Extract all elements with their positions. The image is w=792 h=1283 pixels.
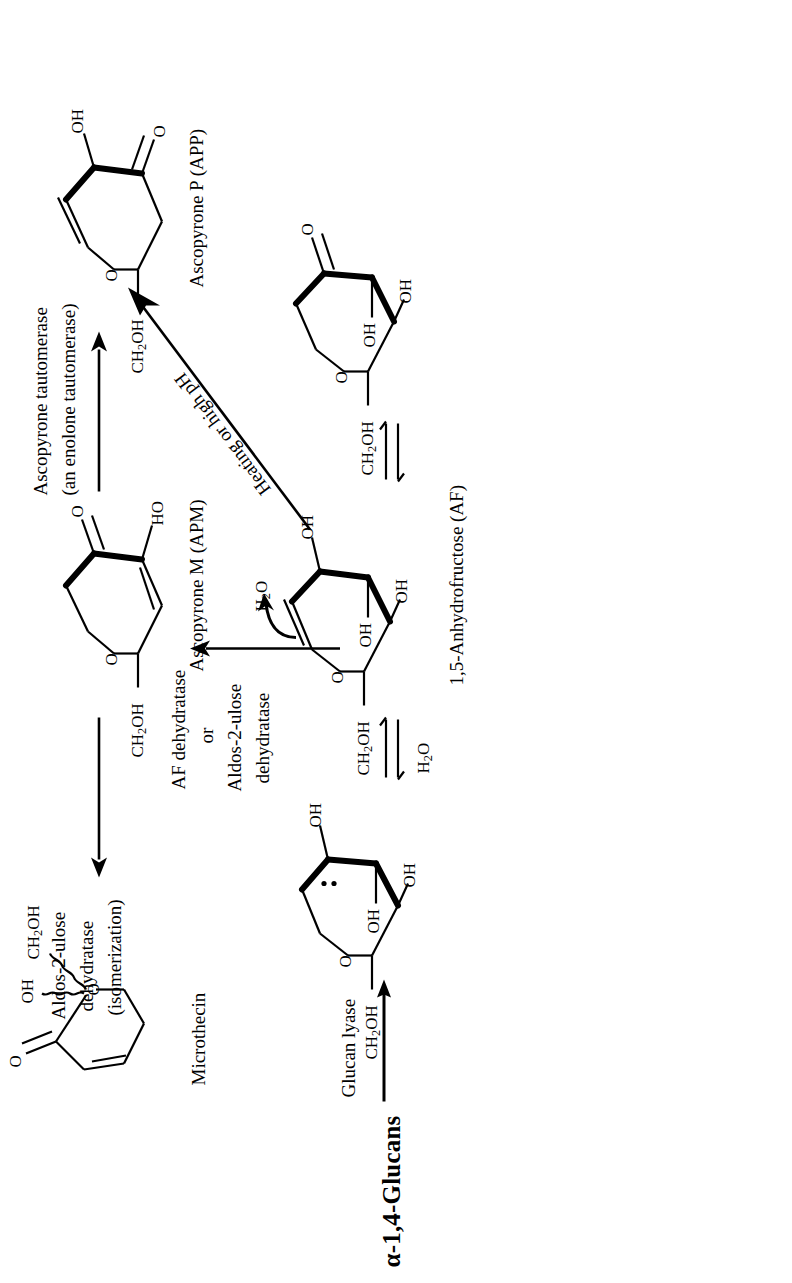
arrow-keto-equilibrium [376,417,410,483]
reaction-scheme: α-1,4-Glucans Glucan lyase [0,0,792,1283]
compound-label-app: Ascopyrone P (APP) [186,128,207,287]
arrow-heating-high-ph [122,281,312,531]
structure-app: O CH2OH OH O [44,113,174,283]
atom-label-oh-enol: OH [68,108,88,133]
structure-af-hydrate: O CH2OH OH OH OH [276,817,408,967]
enzyme-label-glucan-lyase: Glucan lyase [338,998,359,1097]
atom-label-carbonyl-oxygen: O [68,505,88,517]
enzyme-label-af-dehydratase-line4: dehydratase [252,692,273,783]
arrow-apm-to-app [86,331,112,491]
atom-label-ch2oh: CH2OH [358,421,380,475]
atom-label-ch2oh: CH2OH [24,905,46,959]
atom-label-ring-oxygen: O [102,653,122,665]
atom-label-ch2oh: CH2OH [362,1005,384,1059]
atom-label-carbonyl-oxygen: O [6,1055,26,1067]
enzyme-label-ascopyrone-tautomerase-line2: (an enolone tautomerase) [58,303,79,495]
atom-label-oh-anomeric: OH [306,802,326,827]
compound-label-microthecin: Microthecin [188,992,209,1085]
atom-label-oh-c4: OH [396,278,416,303]
enzyme-label-af-dehydratase-line3: Aldos-2-ulose [224,683,245,791]
atom-label-oh-c3: OH [364,908,384,933]
atom-label-ring-oxygen: O [336,955,356,967]
enzyme-label-ascopyrone-tautomerase-line1: Ascopyrone tautomerase [30,307,51,495]
atom-label-oh-c3: OH [360,322,380,347]
atom-label-ring-oxygen: O [84,983,104,995]
enzyme-label-af-dehydratase-line1: AF dehydratase [168,669,189,789]
atom-label-oh-c3: OH [356,622,376,647]
atom-label-oh-c4: OH [400,862,420,887]
compound-label-af: 1,5-Anhydrofructose (AF) [446,484,467,685]
molecule-label-water-left: H2O [414,742,436,773]
atom-label-ring-oxygen: O [102,269,122,281]
atom-label-carbonyl-oxygen: O [298,223,318,235]
enzyme-label-af-dehydratase-line2: or [196,727,217,743]
diagram-page: α-1,4-Glucans Glucan lyase [0,0,792,1283]
arrow-apm-to-microthecin [86,717,112,877]
atom-label-ch2oh: CH2OH [354,721,376,775]
compound-label-glucans: α-1,4-Glucans [378,1115,406,1267]
arrow-hydrate-equilibrium [376,713,410,783]
atom-label-oh-c4: OH [392,578,412,603]
atom-label-carbonyl-oxygen: O [150,125,170,137]
molecule-label-water-loss: H2O [252,580,274,611]
structure-microthecin: O OH CH2OH O [40,907,170,1087]
atom-label-oh: OH [18,978,38,1003]
atom-label-ch2oh: CH2OH [128,703,150,757]
atom-label-ring-oxygen: O [328,671,348,683]
atom-label-ring-oxygen: O [332,371,352,383]
